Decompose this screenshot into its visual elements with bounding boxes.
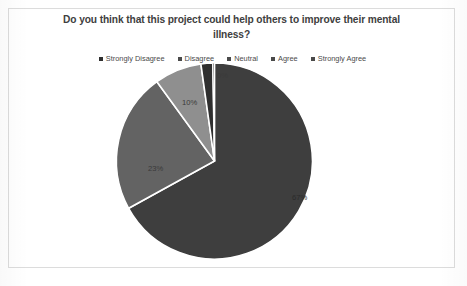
- legend-item-strongly-disagree[interactable]: Strongly Disagree: [99, 54, 165, 63]
- pie-slice-agree[interactable]: [201, 63, 215, 161]
- legend-swatch-icon: [178, 57, 182, 61]
- pie-chart-graphic: [107, 61, 322, 261]
- legend-item-agree[interactable]: Agree: [271, 54, 298, 63]
- legend-swatch-icon: [227, 57, 231, 61]
- pie-label-strongly-disagree: 0%: [217, 71, 228, 80]
- pie-plot-area: 0% 10% 23% 67%: [9, 9, 456, 269]
- legend-swatch-icon: [271, 57, 275, 61]
- pie-label-neutral: 23%: [148, 164, 163, 173]
- legend-swatch-icon: [311, 57, 315, 61]
- legend-label: Strongly Agree: [318, 54, 366, 63]
- pie-slice-strongly-agree[interactable]: [129, 63, 313, 259]
- legend-item-neutral[interactable]: Neutral: [227, 54, 258, 63]
- pie-slice-disagree[interactable]: [157, 64, 215, 161]
- pie-slice-neutral[interactable]: [116, 82, 214, 209]
- legend-label: Strongly Disagree: [106, 54, 165, 63]
- pie-label-strongly-agree: 67%: [292, 193, 307, 202]
- chart-title: Do you think that this project could hel…: [49, 13, 414, 42]
- pie-slice-strongly-disagree[interactable]: [213, 63, 215, 161]
- legend-item-strongly-agree[interactable]: Strongly Agree: [311, 54, 366, 63]
- legend-label: Neutral: [234, 54, 258, 63]
- legend-label: Disagree: [185, 54, 215, 63]
- chart-frame: Do you think that this project could hel…: [8, 8, 455, 268]
- legend-item-disagree[interactable]: Disagree: [178, 54, 215, 63]
- legend-swatch-icon: [99, 57, 103, 61]
- chart-legend: Strongly Disagree Disagree Neutral Agree…: [9, 54, 456, 63]
- pie-label-disagree: 10%: [182, 98, 197, 107]
- legend-label: Agree: [278, 54, 298, 63]
